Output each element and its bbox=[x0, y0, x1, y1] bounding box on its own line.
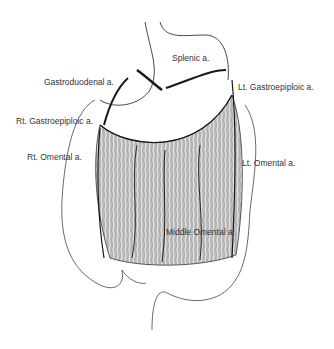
stomach bbox=[100, 22, 228, 105]
greater-omentum bbox=[96, 95, 243, 265]
label-rt-omental: Rt. Omental a. bbox=[27, 152, 82, 162]
label-lt-gastroepiploic: Lt. Gastroepiploic a. bbox=[238, 82, 314, 92]
label-rt-gastroepiploic: Rt. Gastroepiploic a. bbox=[16, 116, 93, 126]
label-splenic: Splenic a. bbox=[172, 53, 209, 63]
label-lt-omental: Lt. Omental a. bbox=[242, 158, 295, 168]
label-middle-omental: Middle Omental a. bbox=[166, 227, 235, 237]
anatomy-illustration bbox=[0, 0, 334, 349]
label-gastroduodenal: Gastroduodenal a. bbox=[44, 77, 114, 87]
omentum-diagram: Splenic a. Gastroduodenal a. Lt. Gastroe… bbox=[0, 0, 334, 349]
